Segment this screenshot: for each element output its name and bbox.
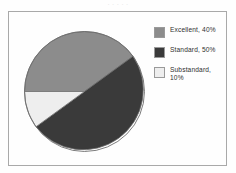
legend-label-standard: Standard, 50% [170, 46, 216, 54]
legend-label-substandard: Substandard, 10% [170, 66, 218, 82]
legend-item-standard: Standard, 50% [154, 46, 224, 58]
pie-chart [24, 31, 145, 152]
pie-chart-plot-area: Excellent, 40% Standard, 50% Substandard… [0, 0, 236, 173]
figure-page: · · · · · Excellent, 40% Standard, 50% [0, 0, 236, 173]
legend-label-excellent: Excellent, 40% [170, 26, 216, 34]
legend-item-substandard: Substandard, 10% [154, 66, 224, 82]
legend-swatch-excellent [154, 27, 165, 38]
legend-item-excellent: Excellent, 40% [154, 26, 224, 38]
legend-swatch-substandard [154, 67, 165, 78]
legend-swatch-standard [154, 47, 165, 58]
chart-legend: Excellent, 40% Standard, 50% Substandard… [154, 26, 224, 90]
